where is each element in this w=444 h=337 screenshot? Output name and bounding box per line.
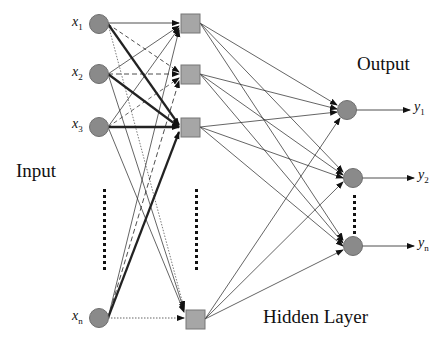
hidden-node-1 bbox=[181, 14, 200, 33]
output-nodes bbox=[338, 101, 363, 256]
input-node-3 bbox=[90, 118, 109, 137]
input-label-3: x3 bbox=[72, 116, 83, 134]
input-label-n: xn bbox=[72, 308, 83, 326]
input-layer-label: Input bbox=[16, 160, 56, 182]
output-node-n bbox=[344, 237, 363, 256]
output-label-n: yn bbox=[418, 235, 429, 253]
hidden-output-connections bbox=[200, 23, 343, 319]
input-label-1: x1 bbox=[72, 14, 83, 32]
output-label-2: y2 bbox=[418, 167, 429, 185]
hidden-node-2 bbox=[181, 65, 200, 84]
input-node-2 bbox=[90, 65, 109, 84]
input-ellipsis bbox=[103, 189, 106, 270]
hidden-nodes bbox=[181, 14, 205, 329]
hidden-node-3 bbox=[181, 118, 200, 137]
output-arrows bbox=[356, 110, 414, 246]
output-node-1 bbox=[338, 101, 357, 120]
output-layer-label: Output bbox=[357, 53, 410, 75]
input-hidden-connections bbox=[108, 23, 184, 318]
output-label-1: y1 bbox=[414, 99, 425, 117]
input-node-1 bbox=[90, 15, 109, 34]
input-label-2: x2 bbox=[72, 64, 83, 82]
hidden-ellipsis bbox=[195, 189, 198, 270]
hidden-layer-label: Hidden Layer bbox=[263, 306, 368, 328]
output-ellipsis bbox=[353, 195, 356, 234]
input-nodes bbox=[90, 15, 109, 328]
output-node-2 bbox=[344, 169, 363, 188]
input-node-n bbox=[90, 309, 109, 328]
hidden-node-n bbox=[186, 310, 205, 329]
network-diagram bbox=[0, 0, 444, 337]
